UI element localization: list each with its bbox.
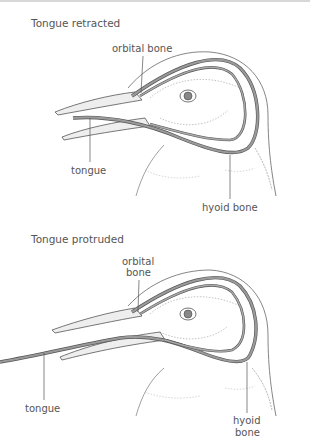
label-orbital-bone-line2: bone bbox=[126, 267, 151, 278]
label-tongue: tongue bbox=[71, 165, 106, 176]
label-tongue: tongue bbox=[25, 403, 60, 414]
label-hyoid-bone: hyoid bone bbox=[202, 202, 258, 213]
panel-tongue-retracted: Tongue retracted orbital bone tongue hyo… bbox=[0, 0, 310, 220]
label-hyoid-bone-line1: hyoid bbox=[233, 415, 261, 426]
label-orbital-bone: orbital bone bbox=[112, 43, 172, 54]
panel-tongue-protruded: Tongue protruded orbital bone tongue hyo… bbox=[0, 220, 310, 447]
woodpecker-head-retracted-illustration bbox=[0, 0, 310, 220]
label-hyoid-bone-line2: bone bbox=[235, 427, 260, 438]
label-orbital-bone-line1: orbital bbox=[122, 256, 154, 267]
